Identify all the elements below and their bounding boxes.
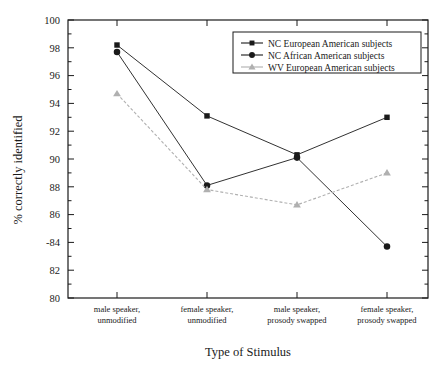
y-tick-label: 100 [44, 15, 60, 26]
x-category-label: prosody swapped [267, 315, 327, 325]
y-axis-title: % correctly identified [11, 115, 25, 225]
circle-marker [294, 154, 301, 161]
circle-marker [114, 49, 121, 56]
y-tick-label: 98 [50, 43, 61, 54]
square-marker [384, 115, 389, 120]
x-category-label: male speaker, [94, 304, 140, 314]
x-category-label: female speaker, [361, 304, 414, 314]
x-category-label: male speaker, [274, 304, 320, 314]
y-tick-label: 96 [50, 70, 61, 81]
chart-container: 8082-8486889092949698100 male speaker,un… [0, 0, 448, 366]
y-tick-label: -84 [46, 237, 61, 248]
legend-label: WV European American subjects [268, 63, 395, 73]
circle-marker [384, 243, 391, 250]
circle-marker [249, 52, 255, 58]
y-tick-label: 80 [50, 293, 61, 304]
line-chart: 8082-8486889092949698100 male speaker,un… [0, 0, 448, 366]
x-category-label: prosody swapped [357, 315, 417, 325]
y-tick-label: 92 [50, 126, 61, 137]
y-tick-label: 90 [50, 154, 61, 165]
x-category-label: unmodified [187, 315, 227, 325]
x-category-label: unmodified [97, 315, 137, 325]
y-tick-label: 82 [50, 265, 61, 276]
y-axis-tick-labels: 8082-8486889092949698100 [44, 15, 61, 304]
x-axis-title: Type of Stimulus [205, 345, 291, 359]
legend-label: NC European American subjects [268, 39, 393, 49]
square-marker [114, 42, 119, 47]
square-marker [204, 113, 209, 118]
square-marker [250, 41, 255, 46]
y-tick-label: 94 [50, 98, 61, 109]
y-tick-label: 86 [50, 209, 61, 220]
x-category-label: female speaker, [181, 304, 234, 314]
x-axis-category-labels: male speaker,unmodifiedfemale speaker,un… [94, 304, 418, 325]
legend-label: NC African American subjects [268, 51, 385, 61]
y-tick-label: 88 [50, 182, 61, 193]
chart-legend: NC European American subjectsNC African … [233, 32, 421, 73]
